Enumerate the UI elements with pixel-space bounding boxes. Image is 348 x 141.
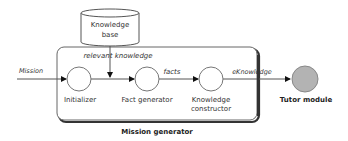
relevant-knowledge-label: relevant knowledge: [83, 52, 152, 60]
mission-label: Mission: [19, 67, 43, 75]
knowledge-base-label-line2: base: [102, 31, 119, 39]
architecture-diagram: Knowledge base relevant knowledge Missio…: [0, 0, 348, 141]
knowledge-base-datastore: Knowledge base: [81, 9, 139, 46]
tutor-module-label: Tutor module: [280, 96, 333, 104]
knowledge-constructor-label-line1: Knowledge: [192, 96, 230, 104]
knowledge-constructor-label-line2: constructor: [191, 105, 231, 113]
eknowledge-label: eKnowledge: [232, 68, 272, 76]
mission-generator-label: Mission generator: [121, 128, 193, 136]
node-tutor-module: Tutor module: [280, 66, 333, 104]
knowledge-base-label-line1: Knowledge: [91, 21, 129, 29]
fact-generator-label: Fact generator: [121, 96, 172, 104]
facts-label: facts: [164, 68, 181, 76]
initializer-label: Initializer: [64, 96, 96, 104]
